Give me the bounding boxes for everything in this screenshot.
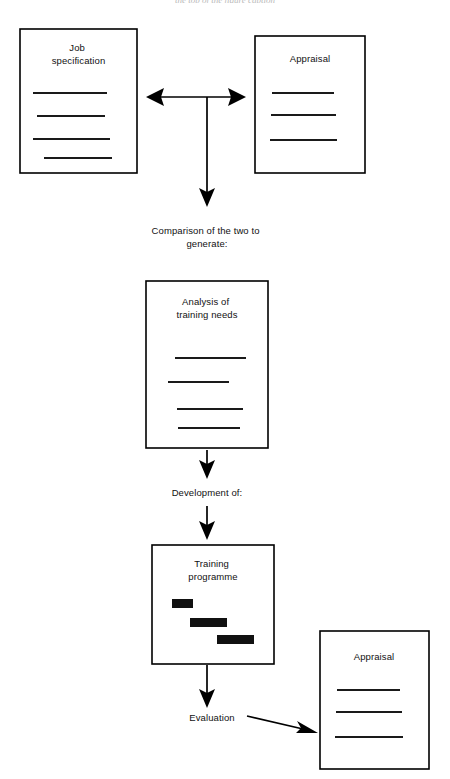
connector-evaluation-to-appraisal <box>247 716 318 733</box>
gantt-bar <box>190 618 227 627</box>
appraisal-bottom-title: Appraisal <box>354 651 395 662</box>
connector-comparison-tee <box>146 88 246 207</box>
connector-programme-to-evaluation <box>199 665 215 708</box>
training-flow-diagram: Job specification Appraisal <box>0 0 450 779</box>
diagram-page: the top of the figure caption Job specif… <box>0 0 450 779</box>
comparison-label: Comparison of the two to generate: <box>152 225 263 249</box>
appraisal-top-title: Appraisal <box>290 53 331 64</box>
gantt-bar <box>172 599 193 608</box>
connector-development-to-programme <box>199 506 215 540</box>
node-job-specification[interactable]: Job specification <box>20 29 137 173</box>
gantt-bar <box>217 635 254 644</box>
node-appraisal-top[interactable]: Appraisal <box>255 36 365 173</box>
node-appraisal-bottom[interactable]: Appraisal <box>320 631 429 769</box>
connector-line <box>247 716 303 729</box>
development-label: Development of: <box>172 487 243 498</box>
evaluation-label: Evaluation <box>189 712 234 723</box>
node-training-programme[interactable]: Training programme <box>152 545 274 664</box>
arrow-head-diagonal-icon <box>296 721 318 733</box>
node-analysis-of-training-needs[interactable]: Analysis of training needs <box>146 281 268 448</box>
connector-analysis-to-development <box>199 450 215 479</box>
